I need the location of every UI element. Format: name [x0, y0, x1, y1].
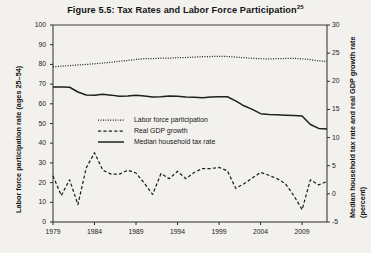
y-tick-label: 90 [24, 41, 46, 48]
figure-container: Figure 5.5: Tax Rates and Labor Force Pa… [0, 0, 371, 253]
x-tick-label: 1989 [119, 228, 153, 235]
y2-axis-label-line2: (percent) [358, 187, 367, 218]
y2-tick-label: 20 [332, 77, 354, 84]
legend-item-label: Labor force participation [134, 116, 208, 123]
y2-tick-label: 10 [332, 134, 354, 141]
y-tick-label: 10 [24, 198, 46, 205]
series-line [53, 153, 327, 210]
y2-tick-label: 30 [332, 21, 354, 28]
x-tick-label: 1984 [78, 228, 112, 235]
y2-tick-label: -5 [332, 218, 354, 225]
y-tick-label: 50 [24, 120, 46, 127]
y-tick-label: 0 [24, 218, 46, 225]
x-tick-label: 1994 [161, 228, 195, 235]
x-tick-label: 1999 [202, 228, 236, 235]
y2-tick-label: 25 [332, 49, 354, 56]
legend-item-label: Median household tax rate [134, 138, 215, 145]
y-tick-label: 30 [24, 159, 46, 166]
legend-item-label: Real GDP growth [134, 127, 188, 134]
y2-tick-label: 15 [332, 105, 354, 112]
y-tick-label: 70 [24, 80, 46, 87]
x-tick-label: 2004 [244, 228, 278, 235]
y-tick-label: 100 [24, 21, 46, 28]
x-tick-label: 1979 [36, 228, 70, 235]
y-tick-label: 60 [24, 100, 46, 107]
series-line [53, 56, 327, 66]
y-tick-label: 20 [24, 179, 46, 186]
y2-tick-label: 5 [332, 162, 354, 169]
y2-tick-label: 0 [332, 190, 354, 197]
y-axis-label: Labor force participation rate (ages 25–… [14, 66, 23, 213]
y-tick-label: 80 [24, 60, 46, 67]
x-tick-label: 2009 [285, 228, 319, 235]
y-tick-label: 40 [24, 139, 46, 146]
